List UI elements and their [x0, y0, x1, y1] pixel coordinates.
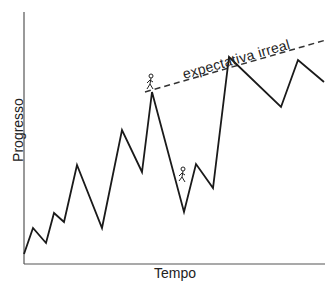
- climber-figure-slope-icon: [179, 167, 185, 182]
- x-axis-label: Tempo: [150, 265, 200, 281]
- climber-figure-icon: [147, 74, 153, 89]
- y-axis-label: Progresso: [10, 95, 26, 165]
- progress-line: [24, 57, 324, 254]
